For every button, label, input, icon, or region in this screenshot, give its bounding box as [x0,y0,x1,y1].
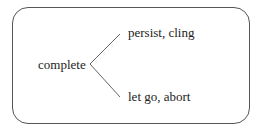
root-term: complete [38,57,86,72]
branch-label-bottom: let go, abort [128,89,190,104]
branch-label-top: persist, cling [128,25,194,40]
branch-line-bottom [90,64,120,97]
branch-line-top [90,34,120,64]
